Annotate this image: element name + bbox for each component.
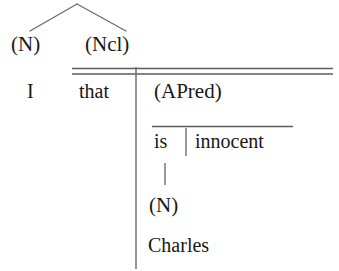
node-label-apred-category: (APred) xyxy=(154,81,222,102)
node-label-lower-noun-word: Charles xyxy=(148,235,209,255)
diagram-lines-layer xyxy=(0,0,339,271)
node-label-complementizer-word: that xyxy=(79,81,109,101)
node-label-subject-word: I xyxy=(27,81,34,101)
node-label-top-right-category: (Ncl) xyxy=(85,34,129,55)
node-label-predicate-word: innocent xyxy=(195,131,264,151)
node-label-top-left-category: (N) xyxy=(11,34,40,55)
node-label-lower-noun-category: (N) xyxy=(149,195,178,216)
edge-apex-to-right-ncl xyxy=(77,4,126,31)
edge-apex-to-left-n xyxy=(30,4,77,31)
tree-diagram: (N) (Ncl) I that (APred) is innocent (N)… xyxy=(0,0,339,271)
node-label-copula-word: is xyxy=(154,131,167,151)
